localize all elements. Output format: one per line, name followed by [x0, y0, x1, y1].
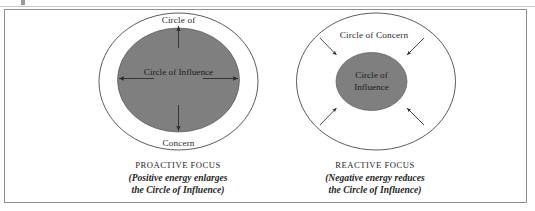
- left-panel: Circle of Concern Circle of Influence PR…: [99, 13, 258, 196]
- left-caption-title: PROACTIVE FOCUS: [135, 160, 221, 170]
- right-caption-line1: (Negative energy reduces: [325, 172, 425, 184]
- circles-diagram: Circle of Concern Circle of Influence PR…: [0, 0, 535, 211]
- right-inner-label-line1: Circle of: [355, 70, 388, 80]
- left-caption-line1: (Positive energy enlarges: [128, 172, 227, 184]
- right-caption-title: REACTIVE FOCUS: [335, 160, 414, 170]
- left-inner-label: Circle of Influence: [144, 67, 213, 77]
- left-outer-label-top: Circle of: [162, 15, 197, 25]
- figure-root: Circle of Concern Circle of Influence PR…: [0, 0, 535, 211]
- left-caption-line2: the Circle of Influence): [132, 184, 225, 196]
- right-outer-label: Circle of Concern: [340, 30, 409, 40]
- right-caption-line2: the Circle of Influence): [329, 184, 422, 196]
- right-inner-label-line2: Influence: [354, 82, 389, 92]
- right-panel: Circle of Concern Circle of Influence RE…: [297, 13, 456, 196]
- left-outer-label-bottom: Concern: [162, 138, 194, 148]
